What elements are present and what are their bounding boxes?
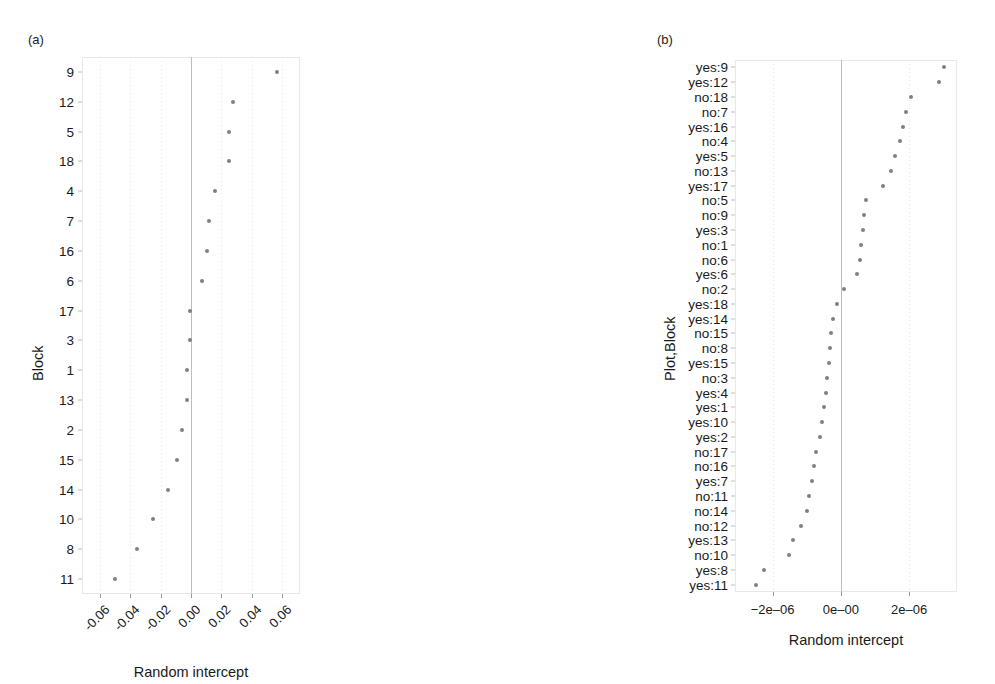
data-point (231, 100, 235, 104)
data-point (205, 249, 209, 253)
y-tick-mark (78, 429, 82, 430)
y-tick-label: 5 (34, 124, 74, 139)
y-tick-label: 11 (34, 572, 74, 587)
panel-a: (a) 912518471661731132151410811 -0.06-0.… (0, 0, 330, 684)
y-tick-mark (78, 519, 82, 520)
y-tick-label: 7 (34, 214, 74, 229)
x-tick-mark (161, 594, 162, 598)
x-gridline (282, 57, 283, 594)
y-tick-mark (78, 71, 82, 72)
y-tick-mark (78, 340, 82, 341)
y-tick-mark (78, 131, 82, 132)
data-point (185, 398, 189, 402)
data-point (188, 309, 192, 313)
y-tick-label: 2 (34, 422, 74, 437)
y-tick-label: 10 (34, 512, 74, 527)
data-point (180, 428, 184, 432)
data-point (166, 488, 170, 492)
y-tick-mark (78, 161, 82, 162)
data-point (275, 70, 279, 74)
data-point (227, 130, 231, 134)
y-tick-mark (78, 579, 82, 580)
x-tick-mark (191, 594, 192, 598)
data-point (185, 368, 189, 372)
y-tick-mark (78, 101, 82, 102)
y-tick-mark (78, 370, 82, 371)
y-tick-label: 12 (34, 94, 74, 109)
x-tick-mark (130, 594, 131, 598)
panel-a-y-axis-title: Block (30, 345, 46, 380)
data-point (200, 279, 204, 283)
y-tick-mark (78, 459, 82, 460)
x-gridline (130, 57, 131, 594)
panel-c: (c) yes:yes:12yes:yes:9no:no:4no:no:7no:… (650, 0, 995, 684)
y-tick-label: 9 (34, 64, 74, 79)
x-gridline (221, 57, 222, 594)
panel-a-tag: (a) (28, 32, 44, 47)
y-tick-mark (78, 549, 82, 550)
data-point (151, 517, 155, 521)
y-tick-label: 6 (34, 273, 74, 288)
y-tick-label: 17 (34, 303, 74, 318)
y-tick-mark (78, 250, 82, 251)
y-tick-label: 14 (34, 482, 74, 497)
y-tick-label: 15 (34, 452, 74, 467)
x-tick-mark (282, 594, 283, 598)
y-tick-mark (78, 191, 82, 192)
x-gridline (252, 57, 253, 594)
data-point (213, 189, 217, 193)
data-point (227, 159, 231, 163)
x-tick-mark (100, 594, 101, 598)
data-point (175, 458, 179, 462)
y-tick-label: 13 (34, 393, 74, 408)
x-gridline (100, 57, 101, 594)
data-point (207, 219, 211, 223)
y-tick-mark (78, 489, 82, 490)
y-tick-label: 16 (34, 243, 74, 258)
x-tick-mark (221, 594, 222, 598)
y-tick-mark (78, 400, 82, 401)
x-tick-mark (252, 594, 253, 598)
y-tick-label: 4 (34, 184, 74, 199)
y-tick-label: 18 (34, 154, 74, 169)
data-point (135, 547, 139, 551)
zero-reference-line (191, 57, 192, 594)
y-tick-label: 8 (34, 542, 74, 557)
data-point (113, 577, 117, 581)
panel-b: (b) yes:9yes:12no:18no:7yes:16no:4yes:5n… (325, 0, 655, 684)
y-tick-mark (78, 310, 82, 311)
panel-a-plot-area (82, 57, 300, 594)
panel-a-x-axis-title: Random intercept (131, 664, 251, 680)
data-point (188, 338, 192, 342)
y-tick-mark (78, 280, 82, 281)
x-gridline (161, 57, 162, 594)
y-tick-mark (78, 221, 82, 222)
